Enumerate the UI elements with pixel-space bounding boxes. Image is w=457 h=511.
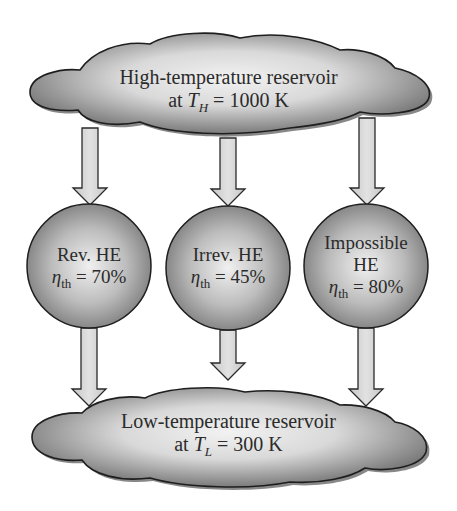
impossible-he-label: Impossible HE ηth = 80% [306, 232, 426, 298]
arrow-impossible-he-to-low [349, 328, 383, 406]
arrow-high-to-irrev-he [211, 138, 245, 206]
irrev-he-efficiency: ηth = 45% [168, 266, 288, 288]
arrow-high-to-rev-he [73, 128, 107, 205]
high-reservoir-temperature: at TH = 1000 K [0, 89, 457, 112]
arrow-irrev-he-to-low [211, 330, 245, 380]
arrow-rev-he-to-low [72, 328, 106, 406]
impossible-he-efficiency: ηth = 80% [306, 276, 426, 298]
impossible-he-name-line2: HE [306, 254, 426, 276]
irrev-he-name: Irrev. HE [168, 244, 288, 266]
low-reservoir-temperature: at TL = 300 K [0, 433, 457, 456]
rev-he-label: Rev. HE ηth = 70% [29, 244, 149, 288]
rev-he-efficiency: ηth = 70% [29, 266, 149, 288]
high-reservoir-title: High-temperature reservoir [0, 66, 457, 89]
low-reservoir-label: Low-temperature reservoir at TL = 300 K [0, 410, 457, 456]
low-reservoir-title: Low-temperature reservoir [0, 410, 457, 433]
rev-he-name: Rev. HE [29, 244, 149, 266]
high-reservoir-label: High-temperature reservoir at TH = 1000 … [0, 66, 457, 112]
irrev-he-label: Irrev. HE ηth = 45% [168, 244, 288, 288]
arrow-high-to-impossible-he [350, 118, 384, 205]
impossible-he-name-line1: Impossible [306, 232, 426, 254]
